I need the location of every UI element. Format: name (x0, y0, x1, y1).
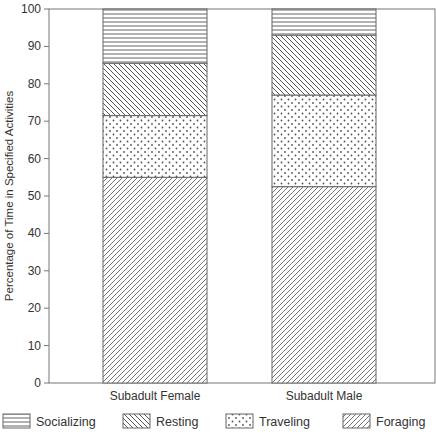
x-axis-labels: Subadult FemaleSubadult Male (110, 389, 363, 403)
legend-item-resting: Resting (123, 414, 198, 429)
y-tick-label: 20 (28, 301, 42, 315)
legend-item-socializing: Socializing (3, 414, 96, 429)
bar-segment-resting (272, 35, 376, 95)
legend-swatch-dots (226, 414, 253, 428)
y-tick-label: 70 (28, 114, 42, 128)
legend-item-traveling: Traveling (226, 414, 310, 429)
bars (103, 9, 376, 383)
legend-label: Traveling (259, 415, 310, 429)
y-tick-label: 0 (34, 376, 41, 390)
legend: SocializingRestingTravelingForaging (3, 414, 425, 429)
y-axis-title: Percentage of Time in Specified Activiti… (3, 91, 15, 302)
bar-segment-traveling (272, 95, 376, 187)
x-category-label: Subadult Male (286, 389, 363, 403)
y-tick-label: 80 (28, 77, 42, 91)
y-tick-label: 60 (28, 152, 42, 166)
legend-label: Foraging (376, 415, 425, 429)
bar-segment-socializing (103, 9, 207, 63)
y-tick-label: 10 (28, 339, 42, 353)
bar-segment-socializing (272, 9, 376, 35)
bar-segment-foraging (103, 177, 207, 383)
stacked-bar-chart: 0102030405060708090100 Subadult FemaleSu… (0, 0, 436, 435)
bar-segment-resting (103, 63, 207, 115)
y-tick-label: 90 (28, 39, 42, 53)
y-axis: 0102030405060708090100 (21, 2, 49, 390)
x-category-label: Subadult Female (110, 389, 201, 403)
y-tick-label: 100 (21, 2, 41, 16)
y-tick-label: 40 (28, 226, 42, 240)
bar-subadult-male (272, 9, 376, 383)
legend-label: Socializing (36, 415, 96, 429)
legend-swatch-diagonal-forward (343, 414, 370, 428)
y-tick-label: 30 (28, 264, 42, 278)
legend-label: Resting (156, 415, 198, 429)
bar-segment-foraging (272, 187, 376, 383)
y-tick-label: 50 (28, 189, 42, 203)
legend-item-foraging: Foraging (343, 414, 425, 429)
legend-swatch-horizontal-lines (3, 414, 30, 428)
bar-segment-traveling (103, 116, 207, 178)
bar-subadult-female (103, 9, 207, 383)
legend-swatch-diagonal-backward (123, 414, 150, 428)
